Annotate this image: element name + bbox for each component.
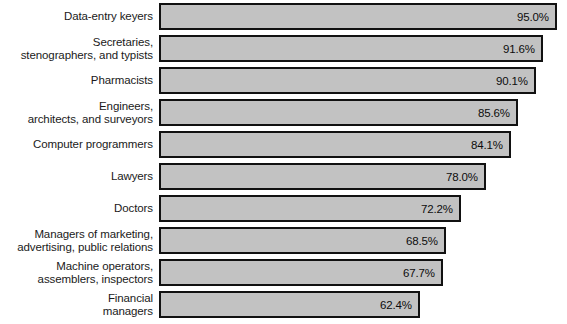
bar-value-label: 90.1% [496, 75, 534, 87]
bar-row: Data-entry keyers95.0% [0, 3, 567, 30]
bar-track: 91.6% [159, 35, 543, 62]
bar-category-label: Machine operators, assemblers, inspector… [0, 259, 153, 285]
bar-value-label: 67.7% [403, 267, 441, 279]
bar: 84.1% [159, 131, 511, 158]
bar: 72.2% [159, 195, 461, 222]
bar: 68.5% [159, 227, 446, 254]
bar-track: 62.4% [159, 291, 420, 318]
bar-category-label: Pharmacists [0, 74, 153, 87]
bar-track: 95.0% [159, 3, 557, 30]
bar-track: 67.7% [159, 259, 443, 286]
bar: 85.6% [159, 99, 518, 126]
bar-category-label: Lawyers [0, 170, 153, 183]
bar: 67.7% [159, 259, 443, 286]
bar-row: Lawyers78.0% [0, 163, 567, 190]
bar-row: Doctors72.2% [0, 195, 567, 222]
bar-value-label: 95.0% [517, 11, 555, 23]
bar-category-label: Secretaries, stenographers, and typists [0, 35, 153, 61]
bar-value-label: 78.0% [446, 171, 484, 183]
bar: 95.0% [159, 3, 557, 30]
bar-row: Machine operators, assemblers, inspector… [0, 259, 567, 286]
bar-track: 68.5% [159, 227, 446, 254]
bar-row: Computer programmers84.1% [0, 131, 567, 158]
bar-row: Pharmacists90.1% [0, 67, 567, 94]
bar-value-label: 62.4% [380, 299, 418, 311]
bar-row: Managers of marketing, advertising, publ… [0, 227, 567, 254]
bar-track: 90.1% [159, 67, 536, 94]
bar-track: 78.0% [159, 163, 486, 190]
bar-category-label: Doctors [0, 202, 153, 215]
bar-row: Financial managers62.4% [0, 291, 567, 318]
bar: 91.6% [159, 35, 543, 62]
chart-plot-area: Data-entry keyers95.0%Secretaries, steno… [0, 0, 567, 324]
bar-track: 85.6% [159, 99, 518, 126]
bar-row: Secretaries, stenographers, and typists9… [0, 35, 567, 62]
bar: 78.0% [159, 163, 486, 190]
bar-category-label: Engineers, architects, and surveyors [0, 99, 153, 125]
bar-value-label: 68.5% [406, 235, 444, 247]
bar-track: 84.1% [159, 131, 511, 158]
bar-category-label: Computer programmers [0, 138, 153, 151]
bar-chart: Data-entry keyers95.0%Secretaries, steno… [0, 0, 567, 324]
bar-track: 72.2% [159, 195, 461, 222]
bar-value-label: 85.6% [478, 107, 516, 119]
bar-row: Engineers, architects, and surveyors85.6… [0, 99, 567, 126]
bar-value-label: 91.6% [503, 43, 541, 55]
bar-value-label: 84.1% [471, 139, 509, 151]
bar: 90.1% [159, 67, 536, 94]
bar: 62.4% [159, 291, 420, 318]
bar-value-label: 72.2% [421, 203, 459, 215]
bar-category-label: Data-entry keyers [0, 10, 153, 23]
bar-category-label: Managers of marketing, advertising, publ… [0, 227, 153, 253]
bar-category-label: Financial managers [0, 291, 153, 317]
